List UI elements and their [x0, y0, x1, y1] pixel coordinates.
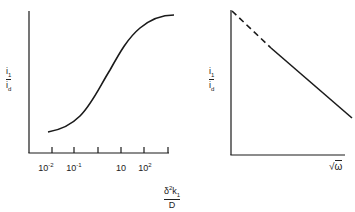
x-tick-label-10: 10 [116, 164, 126, 173]
sqrt-sign: √ [329, 161, 335, 172]
left-y-axis-label: i1 id [6, 67, 11, 92]
x-tick-label-100: 102 [138, 162, 151, 173]
chart-canvas [0, 0, 355, 212]
right-chart-axes [230, 10, 345, 155]
right-chart-dashed-line [232, 11, 271, 48]
right-y-axis-label: i1 id [209, 67, 214, 92]
right-x-axis-label: √ω [329, 162, 342, 172]
x-tick-label-0.01: 10-2 [38, 162, 53, 173]
left-x-axis-label: δ2k1 D [164, 185, 180, 210]
right-chart-solid-line [271, 48, 352, 118]
left-chart-sigmoid-curve [48, 15, 174, 132]
x-tick-label-0.1: 10-1 [66, 162, 81, 173]
